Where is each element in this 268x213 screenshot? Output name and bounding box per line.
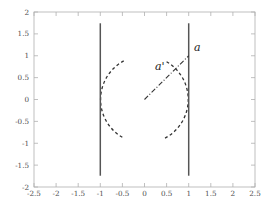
x-tick-label: -2 (53, 189, 60, 198)
x-tick-label: -1.5 (71, 189, 85, 198)
chart-figure: -2.5 -2 -1.5 -1 -0.5 0 0.5 1 1.5 2 2.5 -… (0, 0, 268, 213)
x-tick-label: 0 (142, 189, 147, 198)
y-tick-label: 2 (24, 8, 29, 17)
x-tick-label: -2.5 (27, 189, 41, 198)
y-tick-labels: -2 -1.5 -1 -0.5 0 0.5 1 1.5 2 (15, 8, 29, 192)
chart-svg: -2.5 -2 -1.5 -1 -0.5 0 0.5 1 1.5 2 2.5 -… (0, 0, 268, 213)
y-tick-label: 1.5 (18, 29, 30, 38)
annotation-label-a: a (194, 41, 201, 54)
y-tick-label: -2 (22, 183, 29, 192)
y-tick-label: -1.5 (15, 161, 29, 170)
x-tick-label: 1.5 (205, 189, 217, 198)
x-tick-label: -0.5 (115, 189, 129, 198)
y-tick-label: 0 (24, 95, 29, 104)
x-tick-labels: -2.5 -2 -1.5 -1 -0.5 0 0.5 1 1.5 2 2.5 (27, 189, 261, 198)
x-tick-label: -1 (97, 189, 104, 198)
y-tick-label: 0.5 (18, 73, 30, 82)
x-tick-label: 2.5 (249, 189, 261, 198)
x-tick-label: 0.5 (161, 189, 173, 198)
y-tick-label: -0.5 (15, 117, 29, 126)
annotation-label-a-prime: a' (155, 60, 165, 73)
y-tick-label: 1 (24, 51, 29, 60)
x-tick-label: 1 (186, 189, 191, 198)
x-tick-label: 2 (231, 189, 236, 198)
y-tick-label: -1 (22, 139, 29, 148)
